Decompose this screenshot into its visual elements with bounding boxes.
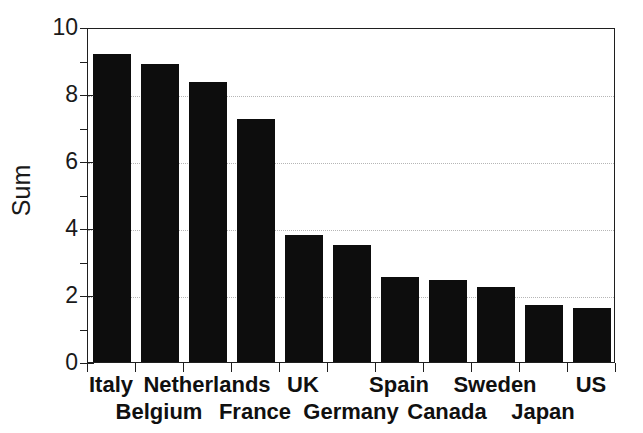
x-tick-label: Japan [463,401,623,423]
x-tick [327,363,328,372]
y-tick-major [80,229,94,230]
y-tick-minor [80,330,88,331]
y-axis-tick-labels: 0246810 [10,0,78,433]
y-tick-minor [80,129,88,130]
x-tick [375,363,376,372]
bar [525,305,563,362]
bar [141,64,179,362]
x-tick [183,363,184,372]
y-tick-label: 6 [44,150,78,173]
bar [285,235,323,362]
y-tick-minor [80,263,88,264]
bar [429,280,467,362]
y-tick-minor [80,196,88,197]
bar [93,54,131,362]
x-tick [87,363,88,372]
y-tick-major [80,296,94,297]
bar [189,82,227,362]
x-tick [471,363,472,372]
x-tick [615,363,616,372]
y-tick-label: 0 [44,351,78,374]
y-tick-label: 10 [44,16,78,39]
bar [477,287,515,362]
x-tick [519,363,520,372]
x-tick-label: US [511,374,643,396]
x-tick [567,363,568,372]
bar [333,245,371,362]
y-tick-major [80,28,94,29]
x-tick [231,363,232,372]
y-tick-major [80,162,94,163]
x-tick [135,363,136,372]
bar [573,308,611,362]
y-tick-major [80,363,94,364]
x-tick [279,363,280,372]
bar [237,119,275,362]
y-tick-minor [80,62,88,63]
plot-area [87,28,615,363]
bar-chart: Sum 0246810 ItalyBelgiumNetherlandsFranc… [0,0,643,433]
bars-layer [88,29,614,362]
y-tick-label: 2 [44,284,78,307]
y-tick-major [80,95,94,96]
y-tick-label: 4 [44,217,78,240]
x-tick [423,363,424,372]
y-tick-label: 8 [44,83,78,106]
bar [381,277,419,362]
